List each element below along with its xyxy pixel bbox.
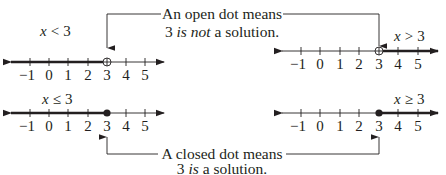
svg-text:1: 1 [64,118,72,134]
callout-connector-left [107,14,161,48]
svg-text:4: 4 [394,56,402,72]
closed-dot [375,109,382,116]
number-line-x-ge-3: x≥3 −1 0 1 2 3 4 5 [282,91,438,134]
svg-text:3: 3 [375,56,383,72]
svg-text:0: 0 [45,67,53,83]
tick-labels: −1 0 1 2 3 4 5 [19,118,149,134]
svg-text:3: 3 [103,118,111,134]
svg-text:2: 2 [355,118,363,134]
svg-text:5: 5 [141,118,149,134]
tick-labels: −1 0 1 2 3 4 5 [290,56,422,72]
callout-connector-left [107,137,158,154]
open-dot-callout: An open dot means 3 is not a solution. [107,5,379,48]
callout-connector-right [286,137,379,154]
svg-text:1: 1 [64,67,72,83]
closed-dot-callout: A closed dot means 3 is a solution. [107,137,379,175]
tick-labels: −1 0 1 2 3 4 5 [290,118,422,134]
svg-text:2: 2 [84,67,92,83]
inequality-label: x<3 [39,23,71,39]
svg-text:3: 3 [375,118,383,134]
number-line-x-gt-3: x>3 −1 0 1 2 3 4 5 [282,28,438,72]
inequality-label: x≤3 [41,91,72,107]
svg-text:0: 0 [45,118,53,134]
number-line-x-lt-3: x<3 −1 0 1 2 3 4 5 [11,23,164,83]
callout-closed-line2: 3 is a solution. [177,160,267,175]
svg-text:5: 5 [414,118,422,134]
closed-dot [103,109,110,116]
inequality-diagram: An open dot means 3 is not a solution. x… [0,0,446,175]
inequality-label: x>3 [393,28,425,44]
callout-open-line2: 3 is not a solution. [165,23,279,40]
svg-text:0: 0 [316,56,324,72]
svg-text:3: 3 [103,67,111,83]
svg-text:1: 1 [336,118,344,134]
svg-text:4: 4 [122,118,130,134]
svg-text:5: 5 [141,67,149,83]
svg-text:4: 4 [122,67,130,83]
svg-text:4: 4 [394,118,402,134]
callout-open-line1: An open dot means [162,5,282,22]
callout-connector-right [283,14,379,46]
svg-text:0: 0 [316,118,324,134]
svg-text:1: 1 [336,56,344,72]
svg-text:−1: −1 [19,67,35,83]
svg-text:2: 2 [84,118,92,134]
open-dot [103,58,111,66]
svg-text:−1: −1 [19,118,35,134]
number-line-x-le-3: x≤3 −1 0 1 2 3 4 5 [11,91,164,134]
tick-labels: −1 0 1 2 3 4 5 [19,67,149,83]
svg-text:5: 5 [414,56,422,72]
svg-text:2: 2 [355,56,363,72]
open-dot [375,47,383,55]
svg-text:−1: −1 [290,56,306,72]
inequality-label: x≥3 [393,91,424,107]
svg-text:−1: −1 [290,118,306,134]
